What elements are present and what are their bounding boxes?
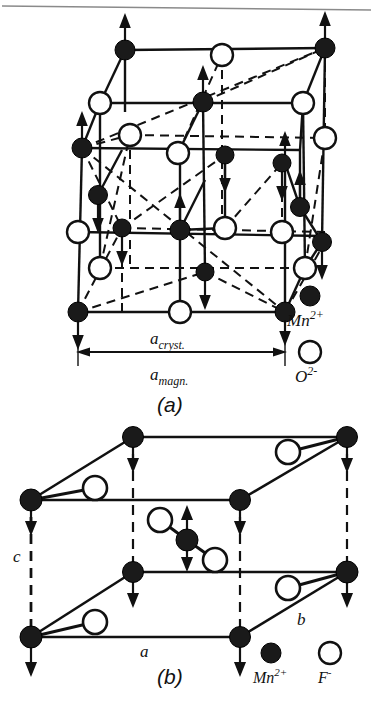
panel-b-caption: (b) bbox=[157, 665, 183, 688]
anion-o bbox=[89, 257, 111, 279]
anion-o bbox=[314, 127, 336, 149]
legend-label-mn: Mn2+ bbox=[252, 666, 287, 686]
anion-f bbox=[148, 508, 172, 532]
cation-mn bbox=[313, 233, 332, 252]
legend-label-mn: Mn2+ bbox=[286, 308, 324, 330]
crystal-structure-figure: acryst. amagn. Mn2+ O2- (a) bbox=[0, 0, 373, 714]
anion-o bbox=[67, 221, 89, 243]
anion-o bbox=[211, 44, 233, 66]
anion-f bbox=[276, 440, 300, 464]
axis-label-a: a bbox=[140, 642, 149, 661]
cation-mn bbox=[170, 220, 190, 240]
panel-b: c a b Mn2+ F- (b) bbox=[13, 427, 358, 689]
cation-mn bbox=[72, 138, 92, 158]
label-a-magn: amagn. bbox=[150, 365, 188, 388]
anion-o bbox=[292, 92, 314, 114]
top-divider-rule bbox=[2, 6, 371, 10]
panel-a-caption: (a) bbox=[157, 393, 183, 416]
cation-mn bbox=[196, 263, 214, 281]
anion-o bbox=[119, 124, 141, 146]
cation-mn bbox=[291, 198, 310, 217]
legend-swatch-mn bbox=[261, 643, 281, 663]
panel-a-cation-group bbox=[68, 38, 335, 322]
axis-label-c: c bbox=[13, 547, 21, 566]
anion-o bbox=[89, 92, 111, 114]
axis-label-b: b bbox=[297, 610, 306, 629]
cation-mn bbox=[113, 219, 131, 237]
cation-mn bbox=[193, 92, 213, 112]
anion-f bbox=[276, 576, 300, 600]
cation-mn bbox=[20, 489, 42, 511]
cation-mn bbox=[230, 490, 251, 511]
cation-mn bbox=[230, 627, 251, 648]
legend-swatch-mn bbox=[300, 286, 320, 306]
anion-f bbox=[83, 476, 107, 500]
cation-mn bbox=[176, 529, 198, 551]
cation-mn bbox=[315, 38, 335, 58]
legend-label-f: F- bbox=[317, 666, 332, 686]
anion-o bbox=[214, 217, 236, 239]
legend-swatch-o bbox=[299, 341, 321, 363]
cation-mn bbox=[123, 427, 144, 448]
anion-o bbox=[271, 221, 293, 243]
panel-a: acryst. amagn. Mn2+ O2- (a) bbox=[67, 14, 336, 416]
anion-o bbox=[167, 142, 189, 164]
cation-mn bbox=[336, 561, 358, 583]
anion-o bbox=[294, 257, 316, 279]
anion-f bbox=[83, 610, 107, 634]
cation-mn bbox=[123, 562, 144, 583]
label-a-cryst: acryst. bbox=[150, 329, 185, 352]
cation-mn bbox=[337, 427, 358, 448]
cation-mn bbox=[115, 40, 135, 60]
figure-container: acryst. amagn. Mn2+ O2- (a) bbox=[0, 0, 373, 714]
cation-mn bbox=[89, 186, 108, 205]
legend-label-o: O2- bbox=[295, 364, 317, 386]
legend-swatch-f bbox=[319, 642, 341, 664]
cation-mn bbox=[68, 302, 88, 322]
anion-f bbox=[203, 548, 227, 572]
anion-o bbox=[169, 301, 191, 323]
cation-mn bbox=[20, 626, 42, 648]
cation-mn bbox=[273, 154, 291, 172]
cation-mn bbox=[216, 146, 234, 164]
